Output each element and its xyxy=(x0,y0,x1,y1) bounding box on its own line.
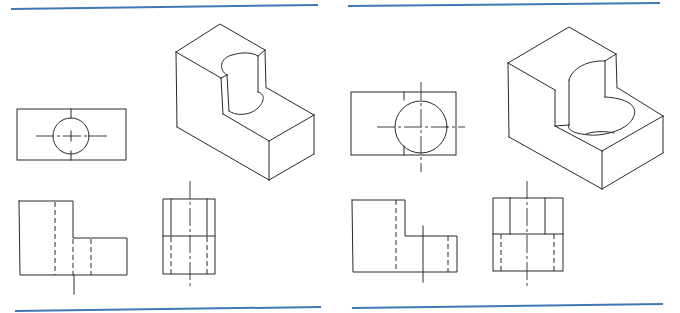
drawing-canvas xyxy=(0,0,680,313)
left-isometric-view xyxy=(176,24,314,180)
left-top-view xyxy=(17,109,126,160)
left-front-view xyxy=(19,201,127,294)
bottom-rules xyxy=(15,304,663,311)
bottom-rule-right xyxy=(352,304,663,308)
right-side-view xyxy=(493,181,563,289)
left-side-view xyxy=(163,181,215,288)
right-front-view xyxy=(352,200,457,282)
top-rule-right xyxy=(348,3,660,6)
panel-right xyxy=(351,27,663,289)
top-rules xyxy=(11,3,660,9)
right-top-view xyxy=(351,82,465,172)
panel-left xyxy=(17,24,314,294)
top-rule-left xyxy=(11,5,318,9)
right-isometric-view xyxy=(508,27,663,189)
bottom-rule-left xyxy=(15,307,321,311)
